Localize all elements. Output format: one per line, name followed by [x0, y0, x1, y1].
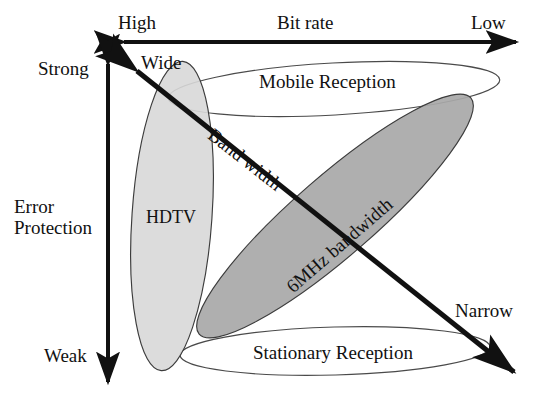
region-label-hdtv: HDTV	[146, 207, 196, 227]
bit-rate-high-label: High	[118, 12, 156, 33]
error-protection-axis-title-line2: Protection	[14, 217, 92, 238]
error-protection-strong-label: Strong	[38, 58, 89, 79]
bit-rate-axis-title: Bit rate	[277, 12, 333, 33]
band-width-narrow-label: Narrow	[455, 300, 513, 321]
region-label-mobile-reception: Mobile Reception	[259, 71, 396, 92]
error-protection-weak-label: Weak	[44, 345, 87, 366]
bit-rate-low-label: Low	[471, 12, 506, 33]
region-label-stationary-reception: Stationary Reception	[253, 342, 413, 363]
bit-rate-error-protection-bandwidth-diagram: High Bit rate Low Strong Error Protectio…	[0, 0, 546, 398]
band-width-wide-label: Wide	[141, 52, 181, 73]
error-protection-axis-title-line1: Error	[14, 196, 92, 217]
error-protection-axis-title: Error Protection	[14, 196, 92, 239]
